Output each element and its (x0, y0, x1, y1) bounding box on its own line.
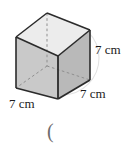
dimension-label-depth: 7 cm (80, 87, 106, 100)
figure-page: 7 cm 7 cm 7 cm ( (0, 0, 136, 148)
stray-parenthesis-character: ( (47, 121, 54, 141)
dimension-label-width: 7 cm (9, 97, 35, 110)
cube-diagram (0, 0, 136, 148)
dimension-label-height: 7 cm (95, 43, 121, 56)
